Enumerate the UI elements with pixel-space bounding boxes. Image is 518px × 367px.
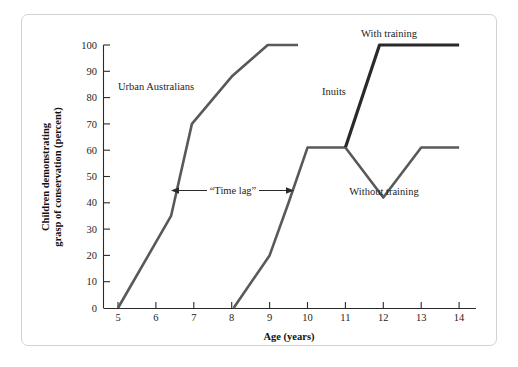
series-label-without-training: Without training xyxy=(349,186,419,197)
x-tick-label-8: 8 xyxy=(229,312,234,323)
series-label-with-training: With training xyxy=(361,28,418,39)
time-lag-annotation: “Time lag” xyxy=(171,185,294,196)
x-tick-label-10: 10 xyxy=(302,312,313,323)
line-chart-canvas: 100 90 80 70 60 50 40 30 20 10 0 5 6 xyxy=(0,0,518,367)
series-line-inuits xyxy=(234,148,346,308)
y-tick-label-50: 50 xyxy=(87,171,98,182)
y-tick-label-10: 10 xyxy=(87,276,98,287)
x-tick-label-7: 7 xyxy=(191,312,196,323)
x-axis-ticks: 5 6 7 8 9 10 11 12 13 14 xyxy=(115,302,465,323)
x-tick-label-14: 14 xyxy=(454,312,465,323)
y-axis-ticks: 100 90 80 70 60 50 40 30 20 10 0 xyxy=(81,40,110,314)
series-label-urban-australians: Urban Australians xyxy=(118,81,194,92)
series-line-with-training xyxy=(345,45,459,148)
chart-figure: 100 90 80 70 60 50 40 30 20 10 0 5 6 xyxy=(0,0,518,367)
y-tick-label-0: 0 xyxy=(92,303,97,314)
y-tick-label-40: 40 xyxy=(87,197,98,208)
y-tick-label-80: 80 xyxy=(87,92,98,103)
x-tick-label-11: 11 xyxy=(340,312,350,323)
time-lag-label: “Time lag” xyxy=(210,185,257,196)
y-axis-title-line2: grasp of conservation (percent) xyxy=(52,107,64,247)
x-tick-label-12: 12 xyxy=(378,312,389,323)
series-label-inuits: Inuits xyxy=(322,86,346,97)
x-tick-label-6: 6 xyxy=(153,312,158,323)
y-tick-label-30: 30 xyxy=(87,224,98,235)
x-tick-label-5: 5 xyxy=(115,312,120,323)
y-tick-label-100: 100 xyxy=(81,40,97,51)
y-tick-label-70: 70 xyxy=(87,119,98,130)
x-tick-label-9: 9 xyxy=(267,312,272,323)
y-tick-label-90: 90 xyxy=(87,66,98,77)
x-tick-label-13: 13 xyxy=(416,312,427,323)
y-axis-title: Children demonstrating grasp of conserva… xyxy=(40,107,64,247)
x-axis-title: Age (years) xyxy=(263,331,315,343)
y-axis-title-line1: Children demonstrating xyxy=(40,122,51,231)
y-tick-label-60: 60 xyxy=(87,145,98,156)
y-tick-label-20: 20 xyxy=(87,250,98,261)
